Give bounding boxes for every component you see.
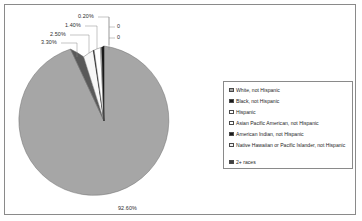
chart-legend: White, not Hispanic Black, not Hispanic … (223, 81, 353, 169)
pie-chart-svg (5, 5, 219, 216)
legend-item-label: Native Hawaiian or Pacific Islander, not… (236, 142, 348, 148)
legend-item-2-plus-races[interactable]: 2+ races (229, 159, 348, 165)
legend-swatch-icon (229, 110, 234, 115)
legend-item-black-not-hispanic[interactable]: Black, not Hispanic (229, 98, 348, 104)
data-label-1-40-percent: 1.40% (65, 22, 81, 28)
legend-item-label: 2+ races (236, 159, 348, 165)
legend-item-label: Hispanic (236, 109, 348, 115)
data-label-92-60-percent: 92.60% (118, 205, 137, 211)
legend-item-white-not-hispanic[interactable]: White, not Hispanic (229, 87, 348, 93)
data-label-2-50-percent: 2.50% (50, 31, 66, 37)
legend-item-american-indian[interactable]: American Indian, not Hispanic (229, 131, 348, 137)
chart-frame: 0.20% 1.40% 2.50% 3.30% 0 0 92.60% White… (4, 4, 356, 215)
legend-swatch-icon (229, 143, 234, 148)
legend-item-asian-pacific-american[interactable]: Asian Pacific American, not Hispanic (229, 120, 348, 126)
data-label-zero-hispanic: 0 (117, 23, 120, 29)
data-label-0-20-percent: 0.20% (78, 13, 94, 19)
legend-swatch-icon (229, 160, 234, 165)
data-label-3-30-percent: 3.30% (41, 39, 57, 45)
legend-item-label: American Indian, not Hispanic (236, 131, 348, 137)
legend-swatch-icon (229, 121, 234, 126)
legend-item-label: Black, not Hispanic (236, 98, 348, 104)
legend-swatch-icon (229, 88, 234, 93)
legend-item-native-hawaiian[interactable]: Native Hawaiian or Pacific Islander, not… (229, 142, 348, 148)
pie-chart-area: 0.20% 1.40% 2.50% 3.30% 0 0 92.60% (5, 5, 219, 216)
legend-swatch-icon (229, 99, 234, 104)
data-label-zero-black: 0 (117, 34, 120, 40)
legend-swatch-icon (229, 132, 234, 137)
legend-item-label: White, not Hispanic (236, 87, 348, 93)
legend-item-label: Asian Pacific American, not Hispanic (236, 120, 348, 126)
legend-item-hispanic[interactable]: Hispanic (229, 109, 348, 115)
